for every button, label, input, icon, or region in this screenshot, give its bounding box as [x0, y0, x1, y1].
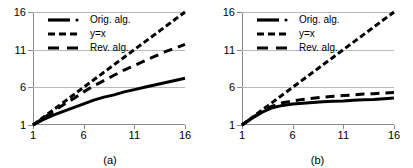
legend-key-solid-thick-dot-icon [46, 14, 86, 26]
y-tick-label-1: 1 [229, 120, 235, 131]
legend-key-short-dash-icon [255, 28, 295, 40]
legend-item-orig-alg: Orig. alg. [255, 14, 340, 26]
legend-label-orig-alg: Orig. alg. [299, 15, 340, 25]
legend-item-orig-alg: Orig. alg. [46, 14, 131, 26]
legend-label-y-equals-x: y=x [90, 29, 106, 39]
series-line-orig-alg [242, 98, 394, 125]
chart-panel-a: 161116161116 Orig. alg. y= [0, 0, 206, 168]
legend-key-long-dash-icon [255, 42, 295, 54]
legend-label-rev-alg: Rev. alg. [90, 43, 129, 53]
y-tick-label-1: 1 [20, 120, 26, 131]
x-tick-label-1: 1 [239, 130, 245, 141]
x-tick-label-16: 16 [388, 130, 400, 141]
legend-key-long-dash-icon [46, 42, 86, 54]
series-line-orig-alg [33, 78, 185, 125]
y-tick-label-11: 11 [224, 44, 235, 55]
figure-two-panel-line-charts: 161116161116 Orig. alg. y= [0, 0, 413, 168]
panel-caption-b: (b) [206, 155, 413, 166]
legend-label-rev-alg: Rev. alg. [299, 43, 338, 53]
legend-item-rev-alg: Rev. alg. [46, 42, 131, 54]
x-tick-label-11: 11 [129, 130, 140, 141]
y-tick-label-11: 11 [15, 44, 26, 55]
legend-item-rev-alg: Rev. alg. [255, 42, 340, 54]
x-tick-label-16: 16 [179, 130, 191, 141]
chart-panel-b: 161116161116 Orig. alg. y= [206, 0, 413, 168]
legend-b: Orig. alg. y=x Rev. alg. [255, 14, 340, 54]
y-tick-label-16: 16 [223, 7, 235, 18]
y-tick-label-6: 6 [229, 82, 235, 93]
y-tick-label-6: 6 [20, 82, 26, 93]
legend-key-short-dash-icon [46, 28, 86, 40]
legend-key-solid-thick-dot-icon [255, 14, 295, 26]
x-tick-label-11: 11 [338, 130, 349, 141]
legend-a: Orig. alg. y=x Rev. alg. [46, 14, 131, 54]
legend-item-y-equals-x: y=x [46, 28, 131, 40]
x-tick-label-6: 6 [290, 130, 296, 141]
x-tick-label-6: 6 [81, 130, 87, 141]
x-tick-label-1: 1 [30, 130, 36, 141]
legend-label-y-equals-x: y=x [299, 29, 315, 39]
legend-item-y-equals-x: y=x [255, 28, 340, 40]
legend-label-orig-alg: Orig. alg. [90, 15, 131, 25]
y-tick-label-16: 16 [14, 7, 26, 18]
panel-caption-a: (a) [0, 155, 206, 166]
